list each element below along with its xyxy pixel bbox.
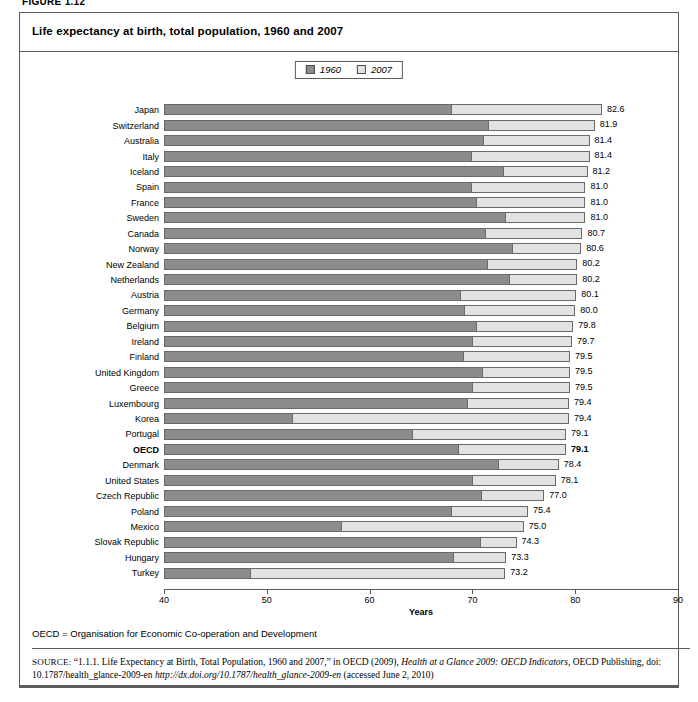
bar-segment-2007 [460, 291, 575, 300]
bar-track: 79.4 [164, 396, 678, 411]
bar-track: 81.0 [164, 196, 678, 211]
x-axis-tick [164, 589, 165, 594]
table-row: Italy81.4 [20, 149, 678, 164]
bar-value-label: 79.5 [575, 351, 593, 362]
bar-segment-2007 [453, 553, 505, 562]
category-label: Czech Republic [20, 492, 164, 501]
plot-area: Japan82.6Switzerland81.9Australia81.4Ita… [20, 103, 678, 615]
bottom-divider [20, 685, 678, 687]
stacked-bar [164, 228, 582, 239]
table-row: Ireland79.7 [20, 335, 678, 350]
bar-value-label: 80.0 [580, 305, 598, 316]
source-publication-title: Health at a Glance 2009: OECD Indicators [401, 657, 568, 667]
bar-segment-1960 [165, 152, 471, 161]
bar-track: 74.3 [164, 535, 678, 550]
category-label: Greece [20, 384, 164, 393]
x-axis-line [164, 589, 678, 590]
bar-segment-2007 [480, 538, 516, 547]
bar-track: 79.1 [164, 443, 678, 458]
source-doi-link[interactable]: http://dx.doi.org/10.1787/health_glance-… [155, 670, 341, 680]
bar-value-label: 79.4 [574, 413, 592, 424]
bar-track: 82.6 [164, 103, 678, 118]
category-label: Portugal [20, 430, 164, 439]
stacked-bar [164, 429, 566, 440]
bar-value-label: 81.2 [593, 166, 611, 177]
bar-track: 80.6 [164, 242, 678, 257]
category-label: Mexico [20, 523, 164, 532]
figure-label: FIGURE 1.12 [22, 0, 85, 7]
bar-segment-1960 [165, 167, 503, 176]
bar-segment-2007 [487, 260, 577, 269]
category-label: Germany [20, 307, 164, 316]
category-label: Japan [20, 106, 164, 115]
bar-value-label: 73.3 [511, 552, 529, 563]
bar-value-label: 74.3 [522, 536, 540, 547]
bar-value-label: 79.1 [571, 444, 589, 455]
bar-value-label: 80.7 [587, 228, 605, 239]
x-axis-tick [678, 589, 679, 594]
bar-segment-1960 [165, 322, 476, 331]
x-axis-tick-label: 90 [673, 595, 683, 605]
bar-value-label: 81.4 [595, 135, 613, 146]
category-label: Luxembourg [20, 400, 164, 409]
bar-value-label: 78.1 [561, 475, 579, 486]
category-label: Slovak Republic [20, 538, 164, 547]
bar-value-label: 79.1 [571, 428, 589, 439]
bar-segment-2007 [472, 476, 554, 485]
bar-value-label: 81.0 [590, 212, 608, 223]
bar-value-label: 80.2 [582, 258, 600, 269]
legend-item-2007: 2007 [357, 65, 392, 75]
bar-track: 80.7 [164, 227, 678, 242]
bar-segment-2007 [498, 460, 558, 469]
bar-segment-1960 [165, 476, 472, 485]
bar-value-label: 73.2 [510, 567, 528, 578]
stacked-bar [164, 537, 517, 548]
bar-segment-1960 [165, 183, 471, 192]
table-row: Netherlands80.2 [20, 273, 678, 288]
bar-segment-1960 [165, 368, 482, 377]
bar-segment-2007 [467, 399, 568, 408]
category-label: Korea [20, 415, 164, 424]
stacked-bar [164, 182, 585, 193]
category-label: Sweden [20, 214, 164, 223]
bar-segment-2007 [476, 322, 572, 331]
table-row: Czech Republic77.0 [20, 489, 678, 504]
x-axis-title: Years [164, 607, 678, 617]
category-label: Australia [20, 137, 164, 146]
source-note: SOURCE: “1.1.1. Life Expectancy at Birth… [32, 656, 666, 682]
category-label: Norway [20, 245, 164, 254]
bar-segment-1960 [165, 399, 467, 408]
x-axis-tick [472, 589, 473, 594]
bar-value-label: 79.7 [577, 336, 595, 347]
bar-value-label: 79.8 [578, 320, 596, 331]
bar-track: 81.4 [164, 134, 678, 149]
stacked-bar [164, 259, 577, 270]
title-divider [20, 51, 678, 52]
table-row: Finland79.5 [20, 350, 678, 365]
bar-segment-1960 [165, 491, 481, 500]
chart-legend: 1960 2007 [295, 61, 403, 79]
table-row: Portugal79.1 [20, 427, 678, 442]
bar-segment-2007 [464, 306, 574, 315]
bar-value-label: 75.0 [529, 521, 547, 532]
bar-track: 81.9 [164, 118, 678, 133]
bar-segment-1960 [165, 553, 453, 562]
bar-segment-2007 [471, 183, 584, 192]
x-axis-tick-label: 50 [262, 595, 272, 605]
bar-track: 78.1 [164, 474, 678, 489]
stacked-bar [164, 367, 570, 378]
bar-segment-1960 [165, 121, 488, 130]
bar-segment-2007 [512, 244, 580, 253]
bar-track: 79.5 [164, 381, 678, 396]
bar-track: 75.4 [164, 504, 678, 519]
bar-track: 78.4 [164, 458, 678, 473]
bar-segment-2007 [505, 213, 584, 222]
category-label: Belgium [20, 322, 164, 331]
bar-value-label: 78.4 [564, 459, 582, 470]
category-label: Italy [20, 153, 164, 162]
legend-swatch-2007-icon [357, 65, 366, 74]
table-row: Germany80.0 [20, 304, 678, 319]
category-label: Switzerland [20, 122, 164, 131]
bar-segment-2007 [451, 507, 527, 516]
bar-track: 80.0 [164, 304, 678, 319]
